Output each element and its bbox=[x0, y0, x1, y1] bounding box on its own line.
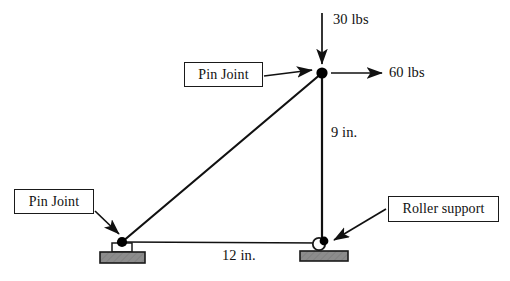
bottom-chord bbox=[122, 242, 322, 243]
horizontal-dimension-label: 12 in. bbox=[222, 248, 256, 263]
pin-joint-top-label: Pin Joint bbox=[184, 62, 263, 87]
apex-joint-dot bbox=[316, 67, 327, 78]
left-pin-support bbox=[100, 237, 145, 263]
pin-joint-left-label: Pin Joint bbox=[14, 189, 94, 214]
left-support-base bbox=[100, 252, 145, 263]
roller-support-label: Roller support bbox=[388, 196, 499, 222]
roller-support-base bbox=[300, 251, 348, 261]
roller-support-leader bbox=[334, 209, 386, 240]
diagonal-member bbox=[122, 73, 322, 242]
roller-support-group bbox=[300, 237, 348, 261]
vertical-load-label: 30 lbs bbox=[333, 12, 369, 27]
truss-members bbox=[122, 73, 322, 243]
figure-canvas: Pin Joint Pin Joint Roller support 30 lb… bbox=[0, 0, 510, 281]
left-pin-joint-dot bbox=[117, 237, 127, 247]
vertical-dimension-label: 9 in. bbox=[331, 125, 357, 140]
callout-leaders bbox=[95, 70, 386, 240]
pin-joint-left-leader bbox=[95, 211, 119, 234]
pin-joint-top-leader bbox=[264, 70, 312, 76]
truss-diagram bbox=[0, 0, 510, 281]
roller-joint-dot bbox=[320, 237, 329, 246]
horizontal-load-label: 60 lbs bbox=[389, 65, 425, 80]
